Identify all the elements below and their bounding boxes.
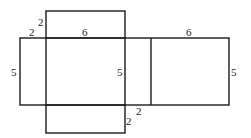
label-bottom-flap-height: 2 bbox=[126, 115, 132, 127]
bottom-flap bbox=[46, 105, 125, 133]
label-left-flap-width: 2 bbox=[29, 26, 35, 38]
label-left-height: 5 bbox=[11, 66, 17, 78]
label-middle-height: 5 bbox=[117, 66, 123, 78]
label-right-height: 5 bbox=[231, 66, 237, 78]
label-right-top-length: 6 bbox=[186, 26, 192, 38]
label-top-length: 6 bbox=[82, 26, 88, 38]
label-bottom-flap-width: 2 bbox=[136, 105, 142, 117]
label-top-flap-height: 2 bbox=[38, 16, 44, 28]
prism-net-diagram: 2 2 6 5 5 6 5 2 2 bbox=[0, 0, 251, 138]
